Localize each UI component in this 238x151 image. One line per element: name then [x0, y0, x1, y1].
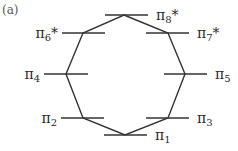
level-label-pi3: π3	[197, 110, 213, 128]
octagon-frost-circle	[66, 15, 185, 135]
mo-octagon-diagram: (a) π8*π6*π7*π4π5π2π3π1	[0, 0, 238, 151]
level-label-pi7: π7*	[197, 25, 220, 43]
level-label-pi6: π6*	[35, 25, 58, 43]
level-label-pi5: π5	[215, 66, 231, 84]
level-label-pi1: π1	[155, 127, 171, 145]
energy-levels	[44, 15, 207, 135]
level-label-pi4: π4	[24, 66, 40, 84]
panel-label: (a)	[2, 3, 19, 17]
level-label-pi2: π2	[41, 110, 57, 128]
level-label-pi8: π8*	[156, 7, 179, 25]
level-labels: π8*π6*π7*π4π5π2π3π1	[24, 7, 230, 145]
